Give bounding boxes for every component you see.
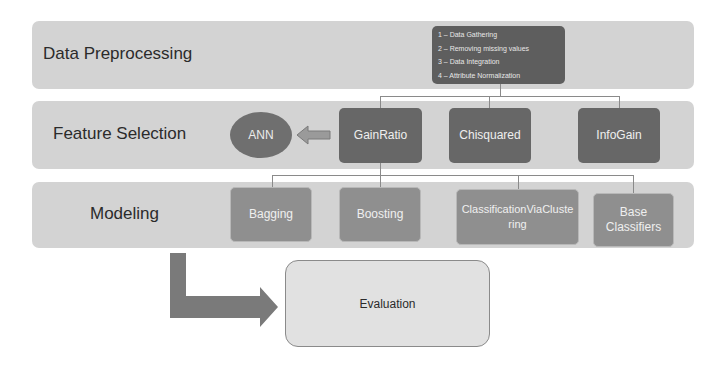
stage-label-data-preprocessing: Data Preprocessing (43, 44, 192, 64)
preprocessing-step: 3 – Data Integration (438, 55, 565, 69)
ann-node: ANN (230, 112, 292, 158)
stage-label-feature-selection: Feature Selection (53, 124, 186, 144)
model-method-base-classifiers: Base Classifiers (593, 193, 674, 247)
connector-line (380, 175, 381, 187)
connector-line (633, 175, 634, 193)
bent-arrow-icon (168, 252, 282, 330)
preprocessing-step: 2 – Removing missing values (438, 42, 565, 56)
feature-method-gainratio: GainRatio (339, 108, 422, 163)
connector-line (380, 96, 381, 108)
preprocessing-step: 1 – Data Gathering (438, 28, 565, 42)
model-method-bagging: Bagging (230, 187, 312, 242)
connector-line (518, 175, 519, 189)
left-arrow-icon (296, 124, 332, 146)
evaluation-node: Evaluation (285, 260, 490, 347)
feature-method-chisquared: Chisquared (449, 108, 531, 163)
connector-line (272, 175, 634, 176)
connector-line (489, 96, 490, 108)
preprocessing-step: 4 – Attribute Normalization (438, 69, 565, 83)
stage-label-modeling: Modeling (90, 204, 159, 224)
connector-line (619, 96, 620, 108)
model-method-boosting: Boosting (339, 187, 421, 242)
connector-line (272, 175, 273, 187)
model-method-classification-via-clustering: ClassificationViaClustering (456, 189, 579, 245)
connector-line (500, 84, 501, 96)
feature-method-infogain: InfoGain (578, 108, 660, 163)
connector-line (380, 96, 620, 97)
preprocessing-steps-box: 1 – Data Gathering 2 – Removing missing … (432, 26, 565, 84)
